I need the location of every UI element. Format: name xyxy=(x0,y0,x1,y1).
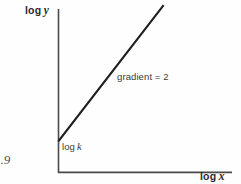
intercept-annotation: log k xyxy=(62,141,82,152)
y-axis-label: log y xyxy=(25,4,49,16)
x-axis-label-prefix: log xyxy=(200,170,219,182)
x-axis-label-variable: x xyxy=(219,170,225,182)
x-axis-label: log x xyxy=(200,170,225,182)
intercept-annotation-prefix: log xyxy=(62,141,77,152)
y-axis-label-prefix: log xyxy=(25,4,44,16)
log-log-plot xyxy=(0,0,241,184)
gradient-annotation: gradient = 2 xyxy=(117,71,169,82)
figure-container: log y log x gradient = 2 log k 1.9 xyxy=(0,0,241,184)
y-axis-label-variable: y xyxy=(44,4,49,16)
figure-number-clipped: 1.9 xyxy=(0,152,10,168)
intercept-annotation-variable: k xyxy=(77,141,82,152)
